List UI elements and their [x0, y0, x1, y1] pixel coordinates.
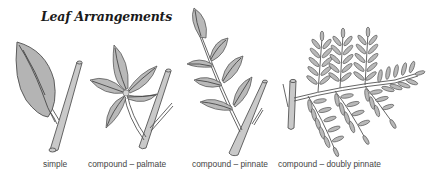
- label-compound-pinnate: compound – pinnate: [192, 159, 268, 169]
- simple-leaf-icon: [16, 42, 82, 152]
- label-compound-doubly-pinnate: compound – doubly pinnate: [278, 159, 381, 169]
- pinnate-leaf-icon: [187, 8, 267, 156]
- doubly-pinnate-leaf-icon: [283, 27, 425, 157]
- label-compound-palmate: compound – palmate: [88, 159, 166, 169]
- palmate-leaf-icon: [90, 45, 173, 149]
- leaf-arrangements-diagram: Leaf Arrangements: [0, 0, 433, 189]
- label-simple: simple: [43, 159, 67, 169]
